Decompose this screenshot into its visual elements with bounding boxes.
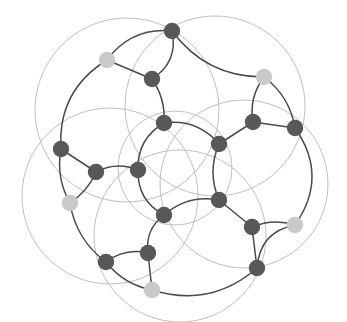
graph-node-dark xyxy=(211,136,227,152)
graph-edge-layer xyxy=(60,31,312,296)
graph-node-dark xyxy=(287,120,303,136)
graph-node-dark xyxy=(245,114,261,130)
graph-node-dark xyxy=(156,207,172,223)
graph-edge xyxy=(107,31,172,60)
graph-node-dark xyxy=(164,23,180,39)
face-circle xyxy=(125,16,305,196)
graph-node-dark xyxy=(144,71,160,87)
graph-edge xyxy=(172,31,264,77)
graph-node-light xyxy=(99,52,115,68)
graph-node-light xyxy=(144,282,160,298)
graph-edge xyxy=(264,77,295,128)
graph-node-dark xyxy=(98,254,114,270)
graph-node-dark xyxy=(249,260,265,276)
face-circle-layer xyxy=(22,16,328,322)
graph-edge xyxy=(152,268,257,296)
graph-node-light xyxy=(62,195,78,211)
graph-node-light xyxy=(256,69,272,85)
graph-edge xyxy=(61,60,107,149)
graph-node-light xyxy=(287,217,303,233)
graph-node-layer xyxy=(53,23,303,298)
graph-node-dark xyxy=(211,192,227,208)
graph-node-dark xyxy=(88,164,104,180)
graph-node-dark xyxy=(156,115,172,131)
graph-edge xyxy=(70,203,106,262)
graph-node-dark xyxy=(53,141,69,157)
graph-diagram-canvas xyxy=(0,0,347,322)
graph-node-dark xyxy=(130,162,146,178)
graph-diagram-figure xyxy=(0,0,347,322)
graph-node-dark xyxy=(244,219,260,235)
graph-edge xyxy=(213,144,219,200)
graph-node-dark xyxy=(140,245,156,261)
